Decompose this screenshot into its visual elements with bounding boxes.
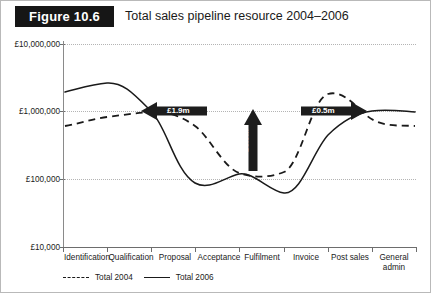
annotation-right-label: £0.5m [312,106,335,115]
figure-header: Figure 10.6 Total sales pipeline resourc… [1,1,431,31]
legend-solid-line-icon [144,277,170,278]
legend-dashed-line-icon [63,277,89,278]
legend-item-total-2006[interactable]: Total 2006 [144,273,214,282]
chart-legend: Total 2004 Total 2006 [63,269,214,285]
legend-label-total-2006: Total 2006 [176,273,214,282]
legend-item-total-2004[interactable]: Total 2004 [63,273,133,282]
legend-label-total-2004: Total 2004 [95,273,133,282]
annotation-right-shift: £0.5m [301,102,367,120]
annotation-left-shift: £1.9m [141,102,207,120]
annotation-left-label: £1.9m [167,106,190,115]
annotation-up-shift: £0.9m [244,109,262,171]
chart-plot-area: £10,000,000 £1,000,000 £100,000 £10,000 … [1,31,431,293]
annotation-up-label: £0.9m [241,129,250,152]
figure-container: Figure 10.6 Total sales pipeline resourc… [0,0,431,293]
figure-number-badge: Figure 10.6 [15,6,114,27]
figure-title: Total sales pipeline resource 2004–2006 [125,7,349,26]
chart-curves [1,31,431,293]
